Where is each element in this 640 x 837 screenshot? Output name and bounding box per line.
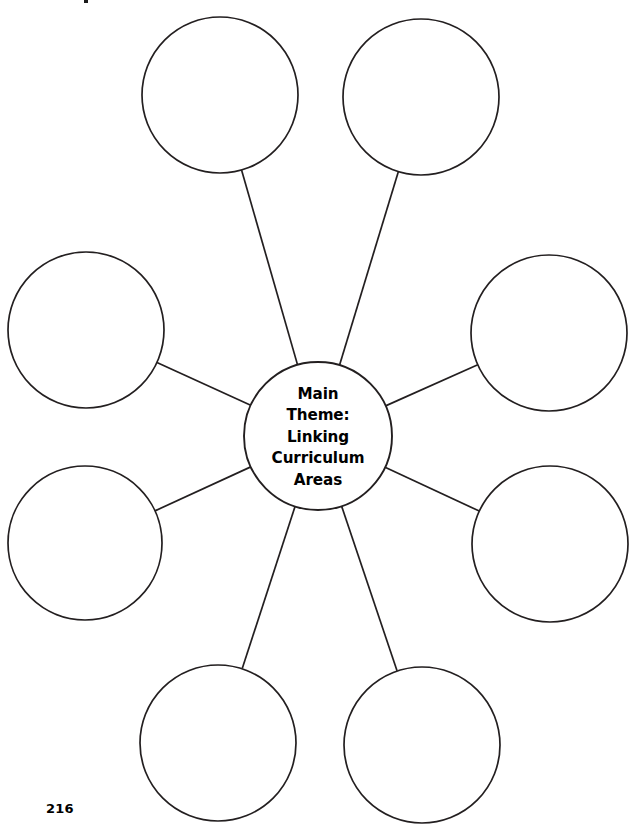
spoke-line-left-upper xyxy=(157,362,251,405)
node-circle-bottom-left[interactable] xyxy=(140,665,296,821)
graphic-organizer-diagram: MainTheme:LinkingCurriculumAreas xyxy=(0,0,640,837)
node-circle-right-lower[interactable] xyxy=(472,466,628,622)
center-theme-line-2: Linking xyxy=(287,428,349,446)
node-circle-top-right[interactable] xyxy=(343,19,499,175)
spoke-line-bottom-right xyxy=(342,506,398,671)
center-theme-line-1: Theme: xyxy=(286,406,349,424)
node-circle-left-lower[interactable] xyxy=(8,466,162,620)
node-circle-right-upper[interactable] xyxy=(471,255,627,411)
spoke-line-right-upper xyxy=(386,365,478,406)
spoke-line-bottom-left xyxy=(242,506,295,668)
center-theme-line-4: Areas xyxy=(294,471,342,489)
spoke-line-right-lower xyxy=(385,467,479,511)
center-theme-line-3: Curriculum xyxy=(272,449,365,467)
worksheet-page: MainTheme:LinkingCurriculumAreas 216 xyxy=(0,0,640,837)
spoke-line-left-lower xyxy=(155,467,251,511)
page-number: 216 xyxy=(46,801,74,816)
center-theme-line-0: Main xyxy=(298,385,339,403)
node-circle-bottom-right[interactable] xyxy=(344,667,500,823)
node-circle-top-left[interactable] xyxy=(142,17,298,173)
node-circle-left-upper[interactable] xyxy=(8,252,164,408)
spoke-line-top-left xyxy=(242,170,298,365)
spoke-line-top-right xyxy=(340,172,399,366)
